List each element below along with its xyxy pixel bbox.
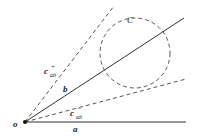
circle-c [100,18,170,88]
line-b-label: b [63,84,68,94]
svg-text:ab: ab [50,72,56,78]
svg-text:−: − [77,105,81,111]
upper-tangent-line [25,6,114,122]
upper-tangent-label: c ab + [44,64,56,78]
line-a-label: a [73,124,78,134]
cone-diagram: o a b C c ab + c ab − [0,0,199,140]
svg-text:c: c [70,108,74,118]
svg-text:+: + [51,64,55,70]
lower-tangent-label: c ab − [70,105,82,120]
svg-text:ab: ab [76,114,82,120]
svg-text:c: c [44,66,48,76]
origin-point [23,120,27,124]
lower-tangent-line [25,79,186,122]
origin-label: o [13,119,18,129]
circle-label: C [127,15,134,25]
